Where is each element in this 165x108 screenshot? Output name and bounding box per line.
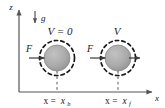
sphere-initial-group: V = 0 F x = x b	[25, 25, 75, 107]
force-label-final: F	[86, 43, 94, 54]
z-axis-label: z	[8, 2, 13, 12]
sphere-final-group: V F x = x f	[86, 25, 140, 107]
position-sub-final: f	[129, 100, 132, 107]
force-label-initial: F	[25, 43, 33, 54]
position-prefix-final: x =	[105, 96, 117, 106]
physics-diagram: z x g V = 0 F x = x b V	[0, 0, 165, 108]
position-prefix-initial: x =	[43, 96, 55, 106]
position-label-final: x = x f	[105, 96, 132, 107]
diagram-canvas: z x g V = 0 F x = x b V	[0, 0, 165, 108]
position-sub-initial: b	[67, 100, 71, 107]
x-axis-label: x	[154, 93, 159, 103]
potential-label-final: V	[114, 25, 122, 37]
gravity-label: g	[41, 13, 46, 23]
potential-label-initial: V = 0	[48, 25, 73, 37]
axis-group	[19, 10, 152, 92]
gravity-arrow-group: g	[35, 11, 46, 23]
sphere-body-final	[105, 45, 131, 71]
sphere-body-initial	[44, 45, 70, 71]
position-label-initial: x = x b	[43, 96, 71, 107]
position-var-initial: x	[60, 96, 66, 106]
position-var-final: x	[121, 96, 127, 106]
